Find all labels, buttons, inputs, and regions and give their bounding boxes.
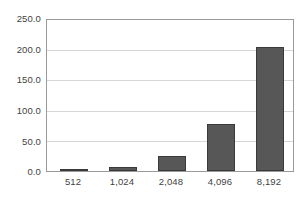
x-axis: 512 1,024 2,048 4,096 8,192 [46, 176, 294, 192]
y-axis: 250.0 200.0 150.0 100.0 50.0 0.0 [0, 0, 44, 202]
bar-512[interactable] [60, 169, 88, 171]
y-tick-label-0: 0.0 [0, 167, 41, 177]
bar-1024[interactable] [109, 167, 137, 171]
x-tick-label-512: 512 [48, 176, 98, 187]
bar-8192[interactable] [256, 47, 284, 171]
y-tick-label-150: 150.0 [0, 75, 41, 85]
x-tick-label-1024: 1,024 [97, 176, 147, 187]
bar-chart: 250.0 200.0 150.0 100.0 50.0 0.0 512 1,0… [0, 0, 308, 202]
x-tick-label-4096: 4,096 [195, 176, 245, 187]
bar-4096[interactable] [207, 124, 235, 171]
x-tick-label-2048: 2,048 [146, 176, 196, 187]
bar-2048[interactable] [158, 156, 186, 171]
y-tick-label-200: 200.0 [0, 45, 41, 55]
plot-area [46, 19, 294, 172]
y-tick-label-50: 50.0 [0, 137, 41, 147]
y-tick-label-250: 250.0 [0, 14, 41, 24]
x-tick-label-8192: 8,192 [244, 176, 294, 187]
bars-layer [47, 20, 293, 171]
y-tick-label-100: 100.0 [0, 106, 41, 116]
